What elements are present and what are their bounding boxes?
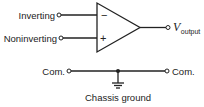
com-right-label: Com. <box>172 66 195 77</box>
noninverting-terminal <box>59 36 63 40</box>
com-left-terminal <box>67 69 71 73</box>
plus-sign: + <box>100 32 106 44</box>
output-label: Voutput <box>173 20 200 36</box>
output-label-sub: output <box>181 28 201 36</box>
minus-sign: − <box>101 9 107 21</box>
chassis-ground-label: Chassis ground <box>85 92 151 103</box>
output-terminal <box>166 26 170 30</box>
com-right-terminal <box>165 69 169 73</box>
com-left-label: Com. <box>42 66 65 77</box>
opamp-diagram: Inverting Noninverting − + Voutput Com. … <box>0 0 204 107</box>
noninverting-label: Noninverting <box>4 33 57 44</box>
inverting-label: Inverting <box>19 10 55 21</box>
ground-icon <box>112 83 124 88</box>
inverting-terminal <box>57 13 61 17</box>
